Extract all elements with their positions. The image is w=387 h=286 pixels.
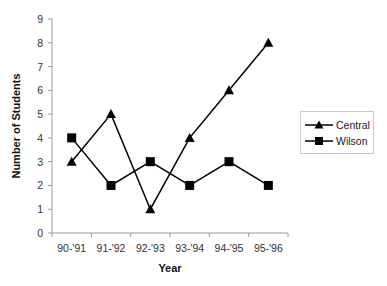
series-central	[67, 38, 274, 213]
x-tick-label: 94-'95	[215, 242, 244, 254]
legend-label: Wilson	[336, 135, 368, 147]
y-tick-label: 2	[37, 179, 43, 191]
y-axis-title: Number of Students	[10, 73, 22, 178]
x-tick-label: 90-'91	[57, 242, 86, 254]
triangle-marker-icon	[305, 119, 333, 131]
legend-item-wilson: Wilson	[305, 134, 368, 148]
y-tick-label: 0	[37, 227, 43, 239]
x-tick-label: 92-'93	[136, 242, 165, 254]
square-marker-icon	[264, 181, 273, 190]
chart-series	[67, 38, 274, 213]
triangle-marker-icon	[263, 38, 273, 47]
x-axis: 90-'9191-'9292-'9393-'9494-'9595-'96	[52, 233, 288, 254]
square-marker-icon	[67, 133, 76, 142]
square-marker-icon	[146, 157, 155, 166]
y-tick-label: 6	[37, 84, 43, 96]
y-tick-label: 7	[37, 61, 43, 73]
y-tick-label: 5	[37, 108, 43, 120]
y-tick-label: 8	[37, 37, 43, 49]
square-marker-icon	[185, 181, 194, 190]
square-marker-icon	[107, 181, 116, 190]
x-tick-label: 95-'96	[254, 242, 283, 254]
x-tick-label: 93-'94	[175, 242, 204, 254]
y-tick-label: 4	[37, 132, 43, 144]
legend-item-central: Central	[305, 118, 370, 132]
y-tick-label: 3	[37, 156, 43, 168]
triangle-marker-icon	[145, 204, 155, 213]
y-tick-label: 9	[37, 13, 43, 25]
x-axis-title: Year	[158, 262, 182, 274]
y-axis: 0123456789	[37, 13, 52, 239]
square-marker-icon	[305, 135, 333, 147]
triangle-marker-icon	[106, 109, 116, 118]
legend-label: Central	[336, 119, 370, 131]
x-tick-label: 91-'92	[97, 242, 126, 254]
y-tick-label: 1	[37, 203, 43, 215]
square-marker-icon	[225, 157, 234, 166]
chart-legend: Central Wilson	[300, 111, 374, 154]
series-wilson	[67, 133, 273, 190]
